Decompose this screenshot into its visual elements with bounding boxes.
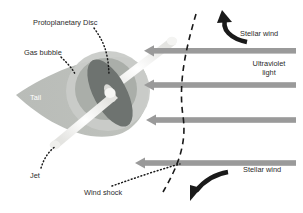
stellar-wind-curved-arrow-bottom bbox=[190, 172, 228, 201]
label-gas-bubble: Gas bubble bbox=[24, 48, 62, 57]
label-ultraviolet-light: Ultraviolet light bbox=[238, 59, 300, 77]
label-wind-shock: Wind shock bbox=[84, 188, 122, 197]
label-ultraviolet-light-line1: Ultraviolet bbox=[253, 59, 286, 68]
leader-wind-shock bbox=[112, 164, 180, 186]
label-stellar-wind-top: Stellar wind bbox=[240, 29, 278, 38]
label-jet: Jet bbox=[30, 171, 40, 180]
label-protoplanetary-disc: Protoplanetary Disc bbox=[33, 18, 98, 27]
label-tail: Tail bbox=[30, 93, 41, 102]
label-stellar-wind-bottom: Stellar wind bbox=[243, 165, 281, 174]
ultraviolet-arrow-2 bbox=[144, 79, 296, 90]
ultraviolet-arrow-3 bbox=[146, 114, 296, 125]
leader-jet bbox=[41, 146, 56, 168]
label-ultraviolet-light-line2: light bbox=[262, 68, 276, 77]
diagram-canvas: Protoplanetary Disc Gas bubble Tail Jet … bbox=[0, 0, 303, 213]
